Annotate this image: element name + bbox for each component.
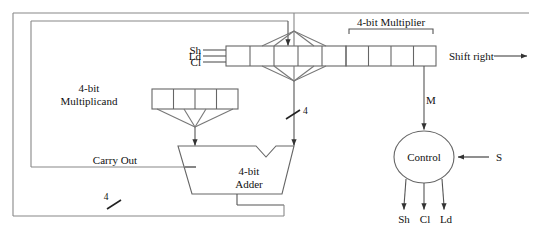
multiplicand-label: 4-bit Multiplicand (61, 82, 118, 108)
outer-feedback-frame (13, 13, 529, 216)
multiplicand-label-line2: Multiplicand (61, 95, 118, 108)
diagram-canvas (0, 0, 541, 233)
control-label: Control (407, 151, 441, 163)
multiplicand-fan (157, 109, 233, 127)
register-input-cl-label: Cl (191, 56, 201, 68)
accumulator-register (226, 46, 346, 66)
adder-label: 4-bit Adder (235, 165, 263, 191)
s-signal-label: S (496, 151, 502, 163)
multiplicand-register (152, 89, 238, 109)
adder-label-line1: 4-bit (235, 165, 263, 178)
carry-out-label: Carry Out (93, 154, 137, 166)
multiplier-bracket-label: 4-bit Multiplier (357, 16, 425, 28)
adder-input-bus-width-label: 4 (303, 106, 308, 117)
feedback-bus-width-label: 4 (104, 192, 109, 203)
adder-sum-feedback (107, 194, 284, 216)
adder-label-line2: Adder (235, 178, 263, 191)
control-output-ld-label: Ld (440, 213, 452, 225)
shift-right-fan (262, 31, 326, 81)
multiplicand-label-line1: 4-bit (61, 82, 118, 95)
accumulator-to-adder-bus (286, 81, 300, 146)
register-control-inputs (203, 50, 226, 62)
m-signal-label: M (426, 94, 436, 106)
control-output-cl-label: Cl (420, 213, 430, 225)
shift-right-label: Shift right (449, 50, 494, 62)
control-output-sh-label: Sh (398, 213, 410, 225)
multiplier-block-diagram: 4-bit Multiplicand 4-bit Multiplier Sh L… (0, 0, 541, 233)
multiplier-bracket (349, 29, 433, 34)
multiplier-register (346, 46, 436, 66)
control-output-lines (404, 179, 444, 210)
